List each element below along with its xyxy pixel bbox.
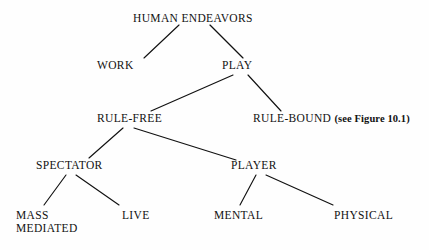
edge-rule-free-to-spectator	[89, 128, 123, 158]
edge-spectator-to-live	[76, 175, 119, 205]
node-mass-mediated-line-2: MEDIATED	[16, 222, 78, 235]
node-rule-bound-label: RULE-BOUND	[253, 112, 331, 124]
node-rule-free: RULE-FREE	[97, 112, 162, 125]
edge-rule-free-to-player	[134, 128, 236, 160]
node-work: WORK	[97, 59, 134, 72]
edge-play-to-rule-free	[151, 75, 233, 111]
node-player: PLAYER	[231, 159, 277, 172]
node-mental: MENTAL	[214, 209, 263, 222]
node-rule-bound: RULE-BOUND (see Figure 10.1)	[253, 112, 410, 125]
node-physical: PHYSICAL	[334, 209, 393, 222]
node-rule-bound-figure-reference: (see Figure 10.1)	[334, 113, 409, 124]
node-play: PLAY	[222, 59, 252, 72]
edge-player-to-physical	[266, 175, 333, 205]
node-spectator: SPECTATOR	[36, 159, 103, 172]
node-mass-mediated: MASSMEDIATED	[16, 209, 78, 235]
figure-hierarchy-diagram: HUMAN ENDEAVORS WORK PLAY RULE-FREE RULE…	[0, 0, 429, 250]
node-mass-mediated-line-1: MASS	[16, 209, 78, 222]
edge-player-to-mental	[240, 175, 256, 205]
node-live: LIVE	[122, 209, 150, 222]
edge-play-to-rule-bound	[248, 75, 281, 111]
edge-root-to-work	[144, 25, 179, 58]
node-human-endeavors: HUMAN ENDEAVORS	[133, 12, 253, 25]
edge-root-to-play	[210, 25, 243, 58]
edge-spectator-to-mass-mediated	[44, 175, 66, 205]
